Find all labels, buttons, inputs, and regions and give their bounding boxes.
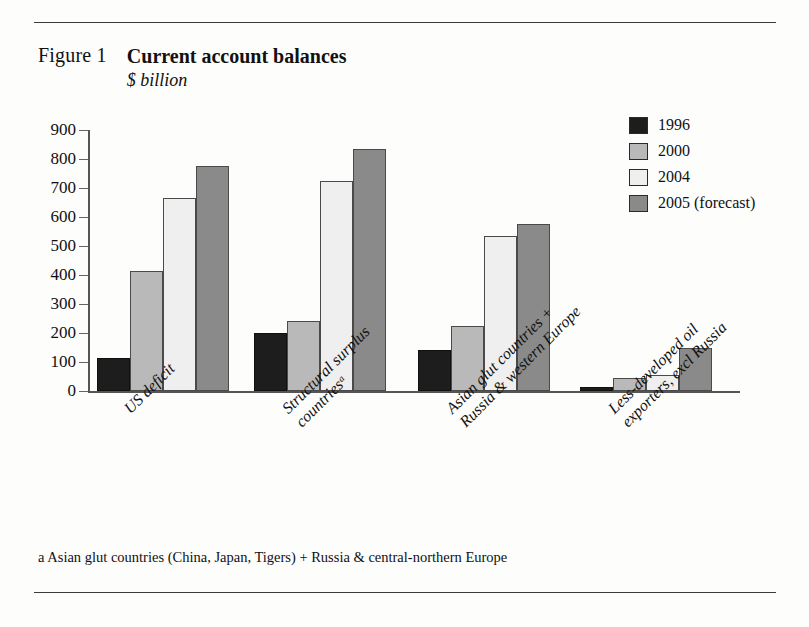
bar[interactable]	[418, 350, 451, 391]
bar[interactable]	[196, 166, 229, 391]
bar[interactable]	[254, 333, 287, 391]
top-divider	[34, 22, 776, 23]
y-axis-tick-label: 900	[30, 120, 76, 140]
y-axis-tick-label: 300	[30, 294, 76, 314]
y-axis-tick-mark	[79, 130, 88, 131]
bar-group	[97, 130, 229, 391]
y-axis-line	[88, 130, 90, 392]
y-axis-tick-mark	[79, 333, 88, 334]
figure-page: Figure 1 Current account balances $ bill…	[0, 0, 809, 627]
y-axis-tick-mark	[79, 217, 88, 218]
y-axis-tick-mark	[79, 159, 88, 160]
y-axis-tick-mark	[79, 275, 88, 276]
bar[interactable]	[580, 387, 613, 391]
y-axis-tick-label: 200	[30, 323, 76, 343]
y-axis-tick-label: 600	[30, 207, 76, 227]
y-axis-tick-mark	[79, 304, 88, 305]
bottom-divider	[34, 592, 776, 593]
page-title: Current account balances	[127, 44, 347, 68]
y-axis-tick-label: 0	[30, 381, 76, 401]
y-axis-tick-label: 800	[30, 149, 76, 169]
bar[interactable]	[97, 358, 130, 391]
y-axis-tick-mark	[79, 246, 88, 247]
y-axis-tick-mark	[79, 362, 88, 363]
title-texts: Current account balances $ billion	[127, 44, 347, 91]
plot-area: 9008007006005004003002001000	[88, 130, 740, 391]
y-axis-tick-mark	[79, 188, 88, 189]
chart-subtitle: $ billion	[127, 69, 347, 91]
figure-label: Figure 1	[38, 44, 107, 67]
y-axis-tick-label: 700	[30, 178, 76, 198]
y-axis-tick-label: 100	[30, 352, 76, 372]
footnote: a Asian glut countries (China, Japan, Ti…	[38, 548, 507, 566]
title-block: Figure 1 Current account balances $ bill…	[38, 44, 598, 91]
y-axis-tick-label: 400	[30, 265, 76, 285]
y-axis-tick-mark	[79, 391, 88, 392]
y-axis-tick-label: 500	[30, 236, 76, 256]
